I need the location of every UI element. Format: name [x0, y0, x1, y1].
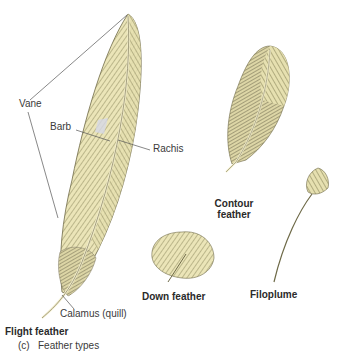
filoplume-label: Filoplume [250, 290, 297, 300]
down-feather-label: Down feather [142, 292, 205, 302]
filoplume [274, 168, 329, 282]
rachis-label: Rachis [153, 144, 184, 154]
flight-feather [42, 14, 141, 318]
vane-label: Vane [19, 99, 42, 109]
calamus-leader [62, 295, 74, 309]
figure-caption: (c) Feather types [18, 341, 99, 351]
contour-label-line1: Contour [204, 199, 264, 209]
contour-feather [226, 46, 289, 172]
barb-label: Barb [50, 122, 71, 132]
caption-letter: (c) [18, 340, 30, 351]
contour-feather-label: Contour feather [204, 199, 264, 220]
down-feather [152, 232, 214, 282]
flight-feather-label: Flight feather [5, 327, 68, 337]
caption-text: Feather types [38, 340, 99, 351]
contour-label-line2: feather [204, 210, 264, 220]
calamus-label: Calamus (quill) [60, 309, 127, 319]
